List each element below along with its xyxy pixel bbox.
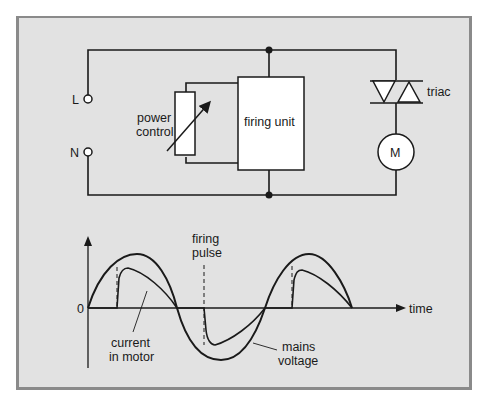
live-terminal-label: L [72, 93, 79, 107]
top-junction-dot [266, 47, 273, 54]
firing-pulse-label-line1: firing [192, 232, 219, 246]
x-axis-arrow-icon [396, 304, 406, 312]
live-terminal-icon [84, 95, 92, 103]
neutral-terminal-label: N [70, 146, 79, 160]
current-label-line2: in motor [109, 350, 154, 364]
triac-label: triac [427, 85, 451, 99]
current-label-line1: current [111, 336, 150, 350]
triac-icon [370, 81, 423, 103]
x-axis-label: time [409, 302, 433, 316]
y-axis-arrow-icon [84, 236, 92, 246]
bottom-junction-dot [266, 192, 273, 199]
power-control-label-line2: control [136, 125, 174, 139]
firing-pulse-label-line2: pulse [192, 246, 222, 260]
current-label-leader [133, 291, 147, 332]
power-control-label-line1: power [137, 111, 171, 125]
voltage-label-line1: mains [282, 340, 315, 354]
motor-current-curve [88, 268, 352, 345]
voltage-label-leader [253, 343, 277, 350]
firing-unit-label: firing unit [244, 115, 295, 129]
voltage-label-line2: voltage [278, 354, 318, 368]
motor-label: M [390, 146, 400, 160]
neutral-terminal-icon [84, 148, 92, 156]
waveform-graph: 0 time firing pulse current in motor mai… [77, 232, 433, 368]
origin-label: 0 [77, 302, 84, 316]
triac-motor-control-diagram: L N power control firing unit triac M 0 … [0, 0, 490, 409]
